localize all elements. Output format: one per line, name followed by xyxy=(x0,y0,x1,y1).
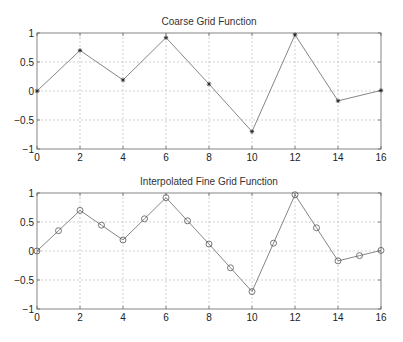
x-tick-label: 12 xyxy=(289,152,301,163)
x-tick-label: 2 xyxy=(77,152,83,163)
y-tick-label: −0.5 xyxy=(14,115,34,126)
y-tick-label: −0.5 xyxy=(14,275,34,286)
star-marker xyxy=(121,78,125,82)
x-tick-label: 14 xyxy=(332,312,344,323)
x-tick-label: 8 xyxy=(206,152,212,163)
fine-grid-plot: 0246810121416−1−0.500.51Interpolated Fin… xyxy=(14,176,387,323)
y-tick-label: 1 xyxy=(28,188,34,199)
chart-title: Interpolated Fine Grid Function xyxy=(140,176,278,187)
x-tick-label: 16 xyxy=(375,312,387,323)
y-tick-label: −1 xyxy=(23,304,35,315)
chart-title: Coarse Grid Function xyxy=(161,16,256,27)
x-tick-label: 16 xyxy=(375,152,387,163)
grid-lines xyxy=(37,193,381,309)
x-tick-label: 8 xyxy=(206,312,212,323)
y-tick-label: 0.5 xyxy=(20,57,34,68)
x-tick-label: 4 xyxy=(120,152,126,163)
star-marker xyxy=(78,48,82,52)
grid-lines xyxy=(37,33,381,149)
star-marker xyxy=(207,82,211,86)
y-tick-label: 0 xyxy=(28,246,34,257)
y-tick-label: 0 xyxy=(28,86,34,97)
x-tick-label: 10 xyxy=(246,152,258,163)
star-marker xyxy=(250,129,254,133)
x-tick-label: 2 xyxy=(77,312,83,323)
x-tick-label: 0 xyxy=(34,152,40,163)
coarse-grid-plot: 0246810121416−1−0.500.51Coarse Grid Func… xyxy=(14,16,387,163)
x-tick-label: 0 xyxy=(34,312,40,323)
x-tick-label: 6 xyxy=(163,152,169,163)
y-tick-label: −1 xyxy=(23,144,35,155)
star-marker xyxy=(293,33,297,37)
x-tick-label: 6 xyxy=(163,312,169,323)
x-tick-label: 4 xyxy=(120,312,126,323)
figure: 0246810121416−1−0.500.51Coarse Grid Func… xyxy=(0,0,403,342)
star-marker xyxy=(336,99,340,103)
x-tick-label: 10 xyxy=(246,312,258,323)
star-marker xyxy=(164,35,168,39)
x-tick-label: 14 xyxy=(332,152,344,163)
star-marker xyxy=(379,88,383,92)
star-marker xyxy=(35,89,39,93)
y-tick-label: 1 xyxy=(28,28,34,39)
y-tick-label: 0.5 xyxy=(20,217,34,228)
x-tick-label: 12 xyxy=(289,312,301,323)
